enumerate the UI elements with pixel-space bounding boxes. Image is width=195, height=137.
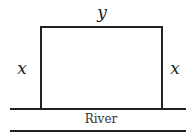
right-side-label: x	[166, 60, 184, 77]
left-side-label: x	[13, 60, 31, 77]
fence-river-diagram: y x x River	[0, 0, 195, 137]
fence-right-side	[161, 26, 163, 109]
river-label: River	[76, 113, 126, 125]
top-side-label: y	[92, 4, 112, 21]
river-top-bank	[10, 108, 186, 110]
fence-left-side	[40, 26, 42, 109]
river-bottom-bank	[10, 130, 186, 132]
fence-top-side	[40, 26, 163, 28]
